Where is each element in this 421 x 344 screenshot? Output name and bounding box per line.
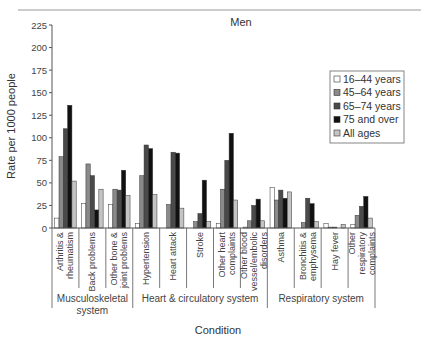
bar [121,170,125,228]
bar [55,218,59,228]
bar-group [243,199,265,228]
legend-item: 65–74 years [334,100,401,112]
y-tick-label: 25 [36,200,47,211]
legend-swatch [334,76,340,82]
bar [82,204,86,228]
bar [359,206,363,228]
bar [59,157,63,228]
bar [140,176,144,228]
bar [283,198,287,228]
category-label: joint problems [119,232,129,290]
bar [351,224,355,228]
y-tick-label: 75 [36,155,47,166]
bar [301,223,305,228]
legend: 16–44 years45–64 years65–74 years75 and … [330,71,404,143]
legend-item: 16–44 years [334,73,401,85]
chart-title: Men [230,16,251,28]
y-axis: 0255075100125150175200225 [31,20,52,234]
bar [364,196,368,228]
legend-label: 75 and over [343,113,399,125]
category-label: complaints [367,232,377,276]
y-tick-label: 125 [31,110,47,121]
legend-swatch [334,130,340,136]
category-label: Other [347,232,357,255]
y-tick-label: 50 [36,177,47,188]
bar [368,218,372,228]
group-label: Musculoskeletal [57,293,128,304]
legend-item: 75 and over [334,113,399,125]
bar [180,208,184,228]
bar [310,204,314,228]
bar [72,181,76,228]
category-label: vessel/embolic [249,232,259,292]
bar-group [109,170,131,228]
bar [68,105,72,228]
group-label: Respiratory system [278,293,364,304]
category-label: Other bone & [109,232,119,286]
bar [233,200,237,228]
y-tick-label: 100 [31,132,47,143]
category-label: Other heart [217,232,227,278]
bar [355,215,359,228]
bar-group [270,187,292,228]
category-label: Heart attack [168,232,178,281]
bar [314,222,318,228]
legend-label: All ages [343,127,380,139]
bar-group [55,105,77,228]
bar [306,198,310,228]
bar [148,149,152,228]
legend-swatch [334,103,340,109]
legend-label: 16–44 years [343,73,401,85]
bar-group [167,152,184,228]
bar [287,192,291,228]
bar-group [82,164,104,228]
bar [126,196,130,228]
bar [113,189,117,228]
legend-label: 45–64 years [343,86,401,98]
group-label: system [77,305,109,316]
bar-group [301,198,318,228]
bar [279,190,283,228]
bar [153,195,157,228]
bar [99,189,103,228]
bar [109,205,113,228]
bar [90,176,94,228]
category-label: Asthma [276,232,286,263]
bar [144,145,148,228]
bar [202,180,206,228]
y-tick-label: 225 [31,20,47,31]
bar [117,190,121,228]
y-tick-label: 175 [31,65,47,76]
bar [324,223,328,228]
bar [247,221,251,228]
bar [274,200,278,228]
bar [86,164,90,228]
bar [256,199,260,228]
x-axis: Arthritis &rheumatismBack problemsOther … [52,228,377,316]
bar-group [351,196,373,228]
bar [252,205,256,228]
bar [135,223,139,228]
bar [194,222,198,228]
category-label: Hay fever [330,232,340,271]
category-label: respiratory [357,232,367,275]
category-label: Bronchitis & [298,232,308,280]
bar-group [324,223,346,228]
x-axis-title: Condition [195,324,241,336]
bar [229,133,233,228]
category-label: complaints [227,232,237,276]
bar [260,221,264,228]
bar [341,224,345,228]
bars [55,105,373,228]
bar-chart: Men 0255075100125150175200225 Rate per 1… [0,0,421,344]
category-label: Hypertension [141,232,151,285]
y-axis-title: Rate per 1000 people [5,73,17,179]
category-label: Other blood [239,232,249,279]
bar [216,223,220,228]
bar [95,210,99,228]
bar [63,129,67,228]
category-label: rheumatism [65,232,75,279]
category-label: Arthritis & [55,232,65,271]
legend-label: 65–74 years [343,100,401,112]
group-label: Heart & circulatory system [142,293,259,304]
